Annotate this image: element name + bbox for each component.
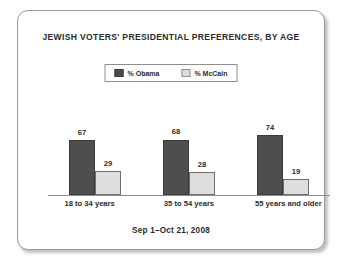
bar-obama[interactable] bbox=[69, 140, 95, 194]
bar-slot-obama: 74 bbox=[257, 111, 283, 195]
chart-card: JEWISH VOTERS' PRESIDENTIAL PREFERENCES,… bbox=[17, 10, 325, 250]
category-label: 35 to 54 years bbox=[139, 199, 238, 208]
bar-mccain[interactable] bbox=[283, 179, 309, 194]
bar-value-label: 29 bbox=[104, 160, 112, 168]
bar-group: 7419 bbox=[236, 111, 330, 195]
bar-value-label: 74 bbox=[266, 124, 274, 132]
legend-label-mccain: % McCain bbox=[194, 70, 227, 77]
bar-value-label: 67 bbox=[78, 129, 86, 137]
bar-group: 6729 bbox=[48, 111, 142, 195]
bar-value-label: 68 bbox=[172, 128, 180, 136]
bar-slot-mccain: 29 bbox=[95, 111, 121, 195]
legend-item-mccain: % McCain bbox=[181, 69, 227, 77]
bar-mccain[interactable] bbox=[95, 171, 121, 195]
legend-item-obama: % Obama bbox=[115, 69, 160, 77]
legend-swatch-icon-obama bbox=[115, 69, 124, 77]
category-label: 18 to 34 years bbox=[40, 199, 139, 208]
bar-slot-obama: 68 bbox=[163, 111, 189, 195]
bar-slot-mccain: 28 bbox=[189, 111, 215, 195]
legend-label-obama: % Obama bbox=[128, 70, 160, 77]
bar-groups: 672968287419 bbox=[48, 111, 330, 195]
chart-figure: JEWISH VOTERS' PRESIDENTIAL PREFERENCES,… bbox=[0, 0, 344, 272]
bar-value-label: 19 bbox=[292, 168, 300, 176]
chart-legend: % Obama % McCain bbox=[105, 64, 238, 82]
axis-baseline bbox=[48, 195, 330, 196]
bar-value-label: 28 bbox=[198, 161, 206, 169]
bar-mccain[interactable] bbox=[189, 172, 215, 195]
bar-slot-mccain: 19 bbox=[283, 111, 309, 195]
bar-obama[interactable] bbox=[257, 135, 283, 195]
footer-date-note: Sep 1–Oct 21, 2008 bbox=[18, 226, 324, 235]
legend-swatch-icon-mccain bbox=[181, 69, 190, 77]
bar-slot-obama: 67 bbox=[69, 111, 95, 195]
bar-obama[interactable] bbox=[163, 140, 189, 195]
category-label: 55 years and older bbox=[239, 199, 338, 208]
plot-area: 672968287419 bbox=[48, 111, 330, 196]
category-axis-labels: 18 to 34 years35 to 54 years55 years and… bbox=[40, 199, 338, 208]
bar-group: 6828 bbox=[142, 111, 236, 195]
page-title: JEWISH VOTERS' PRESIDENTIAL PREFERENCES,… bbox=[18, 32, 324, 42]
